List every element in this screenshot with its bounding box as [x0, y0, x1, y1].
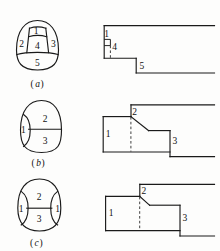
technical-figure: 1 2 3 4 5 ( a )	[0, 0, 220, 251]
profile-b-label-2: 2	[132, 107, 137, 117]
panel-b-paren-close: )	[41, 158, 44, 169]
blob-a-region-2-label: 2	[19, 39, 24, 49]
panel-b-caption: ( b )	[32, 158, 45, 169]
panel-c-right-profile: 1 2 3	[106, 184, 215, 236]
blob-a-edge-left	[27, 28, 30, 53]
panel-c-paren-open: (	[30, 238, 33, 249]
blob-b-region-2-label: 2	[43, 114, 48, 124]
blob-a-region-1-label: 1	[34, 26, 39, 36]
profile-a-label-4: 4	[112, 42, 117, 52]
panel-a-left-shape: 1 2 3 4 5	[17, 21, 59, 71]
panel-b-right-profile: 1 2 3	[103, 105, 214, 157]
blob-b-region-1-label: 1	[21, 125, 26, 135]
blob-c-region-1-left-label: 1	[19, 204, 24, 214]
profile-b-label-3: 3	[172, 136, 177, 146]
blob-b-outline	[21, 101, 62, 153]
blob-a-region-3-label: 3	[51, 39, 56, 49]
blob-a-edge-right	[46, 28, 49, 53]
panel-c-caption: ( c )	[30, 238, 43, 249]
profile-c-label-3: 3	[182, 213, 187, 223]
panel-a-paren-close: )	[41, 79, 44, 90]
profile-b-label-1: 1	[106, 129, 111, 139]
blob-c-region-1-right-label: 1	[55, 204, 60, 214]
panel-c-left-shape: 1 1 2 3	[18, 179, 61, 231]
profile-c-label-2: 2	[141, 186, 146, 196]
panel-a-letter: a	[35, 79, 40, 89]
blob-b-region-3-label: 3	[43, 136, 48, 146]
panel-a-caption: ( a )	[31, 79, 44, 90]
profile-a-label-5: 5	[139, 61, 144, 71]
panel-a-right-profile: 1 4 5	[104, 26, 214, 73]
blob-c-region-2-label: 2	[37, 192, 42, 202]
panel-b-left-shape: 1 2 3	[21, 101, 62, 153]
profile-c-ramp	[140, 196, 150, 205]
profile-c-label-1: 1	[109, 208, 114, 218]
panel-c-paren-close: )	[40, 238, 43, 249]
figure-root: 1 2 3 4 5 ( a )	[0, 0, 220, 251]
profile-a-label-1: 1	[104, 29, 109, 39]
blob-a-chord-lower	[17, 52, 58, 54]
blob-a-region-5-label: 5	[35, 58, 40, 68]
profile-a-notch-top	[104, 39, 110, 45]
blob-a-region-4-label: 4	[35, 41, 40, 51]
panel-b-paren-open: (	[32, 158, 35, 169]
blob-c-region-3-label: 3	[37, 214, 42, 224]
profile-b-ramp	[131, 117, 149, 131]
panel-a-paren-open: (	[31, 79, 34, 90]
